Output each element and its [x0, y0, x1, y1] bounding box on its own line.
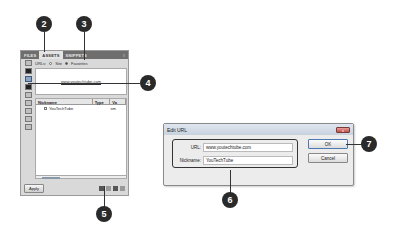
remove-from-favorites-icon[interactable]: [120, 186, 125, 191]
ok-button[interactable]: OK: [308, 139, 348, 149]
favorites-radio[interactable]: [65, 62, 68, 65]
dialog-title: Edit URL: [167, 127, 187, 133]
url-input[interactable]: www.youtechtube.com: [203, 143, 293, 152]
site-radio-label: Site: [55, 61, 62, 66]
templates-icon[interactable]: [25, 116, 32, 122]
scrollbar-thumb[interactable]: [42, 177, 60, 180]
item-value: sm: [110, 106, 126, 111]
tab-files[interactable]: FILES: [21, 51, 39, 59]
list-item[interactable]: YouTechTube sm: [36, 105, 126, 111]
apply-button[interactable]: Apply: [24, 184, 44, 193]
callout-line-7: [346, 144, 362, 145]
column-type[interactable]: Type: [93, 99, 111, 104]
asset-category-column: [22, 60, 34, 180]
edit-icon[interactable]: [106, 186, 111, 191]
edit-url-dialog: Edit URL x URL: www.youtechtube.com Nick…: [163, 123, 354, 186]
panel-tab-bar: FILES ASSETS SNIPPETS ≡: [21, 51, 128, 59]
flash-icon[interactable]: [25, 84, 32, 90]
colors-icon[interactable]: [25, 68, 32, 74]
scripts-icon[interactable]: [25, 108, 32, 114]
callout-3: 3: [76, 16, 92, 32]
tab-snippets[interactable]: SNIPPETS: [63, 51, 90, 59]
nickname-input[interactable]: YouTechTube: [203, 156, 293, 165]
nickname-label: Nickname:: [173, 158, 203, 163]
tab-assets[interactable]: ASSETS: [39, 51, 62, 59]
fields-group: URL: www.youtechtube.com Nickname: YouTe…: [172, 139, 298, 168]
view-toggle: URLs: Site Favorites: [35, 60, 127, 67]
callout-line-4: [28, 83, 140, 84]
url-asset-icon: [44, 107, 47, 110]
view-label: URLs:: [35, 61, 46, 66]
new-asset-icon[interactable]: [113, 186, 118, 191]
urls-icon[interactable]: [25, 76, 32, 82]
url-label: URL:: [173, 145, 203, 150]
callout-4: 4: [140, 75, 156, 91]
cancel-button[interactable]: Cancel: [308, 153, 348, 163]
column-nickname[interactable]: Nickname: [36, 99, 93, 104]
column-value[interactable]: Va: [110, 99, 126, 104]
nickname-row: Nickname: YouTechTube: [173, 155, 297, 165]
favorites-radio-label: Favorites: [71, 61, 87, 66]
asset-list: Nickname Type Va YouTechTube sm: [35, 98, 127, 176]
callout-6: 6: [222, 192, 238, 208]
library-icon[interactable]: [25, 124, 32, 130]
site-radio[interactable]: [49, 62, 52, 65]
callout-5: 5: [96, 206, 112, 222]
movies-icon[interactable]: [25, 100, 32, 106]
callout-line-2: [44, 32, 45, 52]
close-icon[interactable]: x: [336, 127, 350, 133]
url-row: URL: www.youtechtube.com: [173, 142, 297, 152]
assets-panel: FILES ASSETS SNIPPETS ≡ URLs: Site Favor…: [20, 50, 129, 196]
callout-2: 2: [36, 16, 52, 32]
shockwave-icon[interactable]: [25, 92, 32, 98]
callout-7: 7: [361, 136, 377, 152]
dialog-titlebar: Edit URL x: [164, 124, 353, 135]
panel-bottom-bar: Apply: [21, 181, 128, 195]
callout-line-5: [104, 186, 105, 208]
callout-line-6: [230, 170, 231, 194]
asset-preview: www.youtechtube.com: [35, 68, 127, 95]
panel-menu-icon[interactable]: ≡: [123, 51, 128, 59]
item-nickname: YouTechTube: [49, 106, 73, 111]
callout-line-3: [84, 32, 85, 60]
images-icon[interactable]: [25, 60, 32, 66]
horizontal-scrollbar[interactable]: [35, 175, 127, 179]
